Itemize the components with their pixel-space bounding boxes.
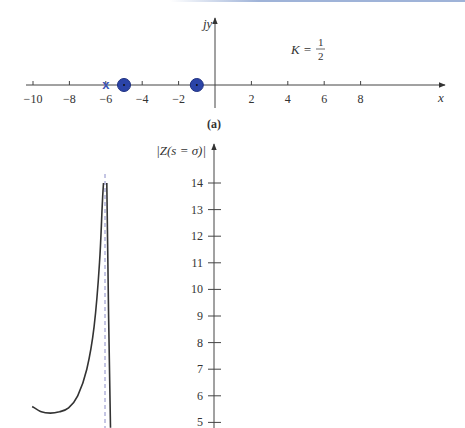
- zero-center-dot: [123, 84, 125, 86]
- x-tick-label: 4: [285, 92, 291, 106]
- left-branch-curve: [32, 183, 103, 413]
- zero-center-dot: [196, 84, 198, 86]
- pole-x-icon: x: [102, 77, 110, 92]
- y-tick-label: 7: [197, 362, 203, 376]
- figure: −10−8−6−4−22468 jy x K = 1 2 x (a) |Z(s …: [0, 0, 465, 428]
- gain-numerator: 1: [318, 36, 324, 48]
- magnitude-axis-label: |Z(s = σ)|: [156, 143, 206, 158]
- y-tick-label: 11: [191, 256, 203, 270]
- x-tick-label: 6: [321, 92, 327, 106]
- y-tick-label: 10: [191, 282, 203, 296]
- x-tick-label: −8: [63, 92, 76, 106]
- x-tick-label: −10: [24, 92, 43, 106]
- magnitude-plot: |Z(s = σ)| 567891011121314: [32, 143, 221, 428]
- x-axis-label: x: [437, 90, 444, 105]
- x-tick-label: −6: [99, 92, 112, 106]
- x-tick-label: 8: [358, 92, 364, 106]
- y-tick-label: 6: [197, 389, 203, 403]
- y-ticks: 567891011121314: [191, 176, 221, 428]
- gain-denominator: 2: [318, 50, 324, 62]
- pole-zero-plot: −10−8−6−4−22468 jy x K = 1 2 x (a): [24, 16, 445, 131]
- jy-axis-label: jy: [201, 16, 213, 31]
- y-tick-label: 13: [191, 203, 203, 217]
- y-tick-label: 9: [197, 309, 203, 323]
- y-tick-label: 8: [197, 336, 203, 350]
- y-tick-label: 14: [191, 176, 203, 190]
- y-tick-label: 12: [191, 229, 203, 243]
- gain-label: K =: [290, 42, 312, 57]
- x-tick-label: 2: [248, 92, 254, 106]
- panel-label-a: (a): [207, 117, 221, 131]
- x-tick-label: −4: [136, 92, 149, 106]
- x-tick-label: −2: [172, 92, 185, 106]
- right-branch-curve: [107, 183, 111, 428]
- y-tick-label: 5: [197, 415, 203, 428]
